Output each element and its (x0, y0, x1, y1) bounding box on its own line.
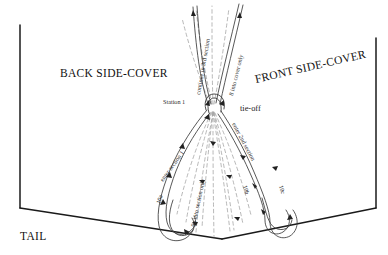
arrow-center-dn-5 (234, 217, 240, 221)
dashed-lower-2 (213, 112, 214, 237)
front-side-cover-label: FRONT SIDE-COVER (254, 48, 367, 85)
diagram-canvas: continue in 3rd section 8 into cover onl… (0, 0, 388, 255)
thread-right-loop (218, 111, 297, 238)
label-step-10b: 10b (242, 185, 250, 195)
dashed-lower-3 (213, 112, 230, 231)
arrow-right-loop-mid (272, 166, 278, 171)
station-1-label: Station 1 (163, 99, 185, 105)
arrow-left-loop-up-1 (179, 143, 185, 149)
label-into-cover-only: 8 into cover only (227, 53, 244, 96)
thread-path-text-group: continue in 3rd section 8 into cover onl… (155, 38, 286, 227)
bookbinding-diagram-svg: continue in 3rd section 8 into cover onl… (0, 0, 388, 255)
arrow-right-loop-dn-1 (240, 155, 246, 160)
dashed-thread-guides (177, 6, 251, 237)
arrow-center-dn-3 (226, 175, 232, 179)
dashed-upper-2 (212, 6, 213, 104)
back-side-cover-label: BACK SIDE-COVER (60, 68, 168, 80)
arrow-right-loop-up (287, 214, 293, 220)
dashed-lower-1 (202, 112, 213, 228)
tail-label: TAIL (20, 231, 46, 243)
front-cover-bottom-edge (222, 208, 376, 239)
tie-off-label: tie-off (240, 105, 261, 113)
label-step-10c: 10c (278, 185, 286, 195)
arrow-center-dn-1 (210, 141, 216, 146)
